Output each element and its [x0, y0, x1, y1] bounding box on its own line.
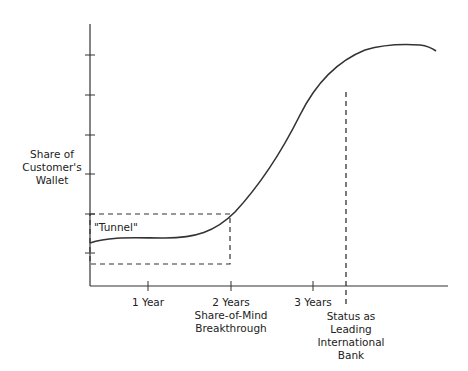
y-label-line: Wallet — [20, 174, 84, 187]
x-tick-label-text: 2 Years — [191, 296, 271, 309]
y-label-line: Share of — [20, 148, 84, 161]
x-tick-label-1: 1 Year — [118, 296, 178, 309]
status-label-line: International — [306, 336, 396, 349]
y-axis-label: Share of Customer's Wallet — [20, 148, 84, 187]
y-label-line: Customer's — [20, 161, 84, 174]
status-label-line: Leading — [306, 323, 396, 336]
status-label: Status as Leading International Bank — [306, 310, 396, 362]
x-tick-label-3: 3 Years — [283, 296, 343, 309]
breakthrough-label: Share-of-Mind — [191, 309, 271, 322]
share-curve — [90, 45, 436, 243]
breakthrough-label: Breakthrough — [191, 322, 271, 335]
status-label-line: Bank — [306, 349, 396, 362]
tunnel-label: "Tunnel" — [94, 221, 138, 234]
status-label-line: Status as — [306, 310, 396, 323]
x-tick-label-2: 2 Years Share-of-Mind Breakthrough — [191, 296, 271, 335]
